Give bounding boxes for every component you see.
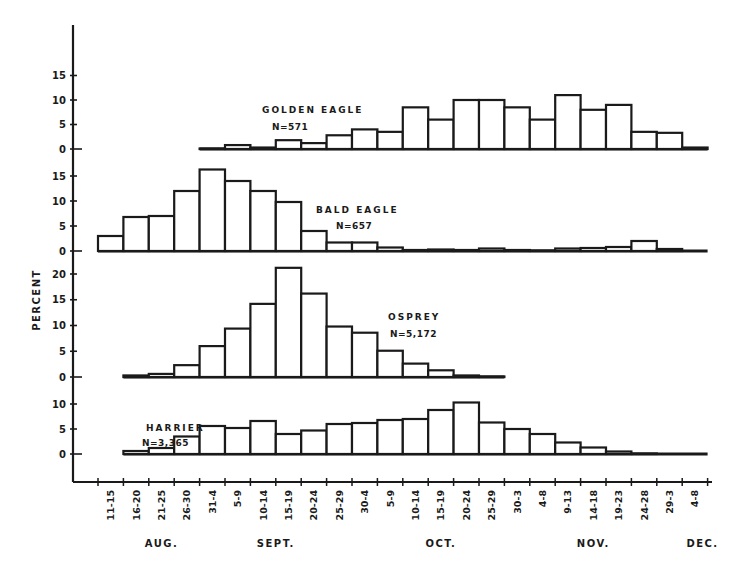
x-tick-label: 31-4 — [207, 490, 218, 514]
bar — [581, 110, 606, 149]
month-labels: AUG.SEPT.OCT.NOV.DEC. — [145, 538, 719, 549]
bar — [377, 248, 402, 252]
bar — [276, 202, 301, 251]
bar — [631, 241, 656, 251]
bar — [377, 351, 402, 377]
y-tick-label: 5 — [59, 346, 66, 357]
y-tick-label: 15 — [52, 294, 66, 305]
series-n-label: N=5,172 — [390, 329, 437, 339]
x-tick-label: 30-3 — [512, 490, 523, 514]
bar — [606, 247, 631, 251]
bar — [225, 181, 250, 251]
bar — [428, 250, 453, 252]
x-tick-label: 14-18 — [588, 490, 599, 521]
bar — [301, 294, 326, 377]
bar — [123, 451, 148, 454]
bar — [352, 423, 377, 454]
x-tick-label: 5-9 — [385, 490, 396, 507]
bar — [631, 454, 656, 455]
x-tick-label: 26-30 — [181, 490, 192, 521]
bar — [403, 364, 428, 377]
bar — [225, 428, 250, 454]
bar — [123, 217, 148, 251]
x-tick-label: 24-28 — [639, 490, 650, 521]
series-n-label: N=3,365 — [142, 438, 189, 448]
x-tick-label: 5-9 — [232, 490, 243, 507]
bar — [479, 423, 504, 455]
bar — [454, 250, 479, 251]
bar — [377, 132, 402, 149]
bar — [479, 100, 504, 149]
y-tick-label: 5 — [59, 221, 66, 232]
series-name-label: HARRIER — [146, 423, 205, 433]
bar — [479, 376, 504, 377]
series-n-label: N=657 — [336, 221, 372, 231]
x-tick-label: 20-24 — [308, 490, 319, 521]
bar — [225, 329, 250, 377]
y-tick-label: 0 — [59, 372, 66, 383]
x-tick-label: 11-15 — [105, 490, 116, 520]
x-tick-label: 25-29 — [486, 490, 497, 520]
x-tick-label: 25-29 — [334, 490, 345, 520]
bar — [149, 216, 174, 251]
bar — [327, 424, 352, 454]
x-tick-label: 15-19 — [283, 490, 294, 520]
y-tick-label: 10 — [52, 320, 66, 331]
bar — [479, 249, 504, 252]
x-tick-label: 4-8 — [689, 490, 700, 508]
bar — [250, 191, 275, 251]
y-tick-label: 15 — [52, 171, 66, 182]
panel-harrier: 0510HARRIERN=3,365 — [52, 399, 708, 460]
series-name-label: GOLDEN EAGLE — [262, 105, 363, 115]
bar — [454, 375, 479, 377]
species-panels: 051015GOLDEN EAGLEN=571051015BALD EAGLEN… — [52, 70, 708, 460]
bar — [581, 448, 606, 455]
bar — [555, 443, 580, 455]
bar — [657, 249, 682, 251]
y-tick-label: 0 — [59, 246, 66, 257]
bar — [555, 95, 580, 149]
bar — [530, 251, 555, 252]
y-tick-label: 10 — [52, 399, 66, 410]
bar — [555, 249, 580, 252]
bar — [428, 370, 453, 377]
x-tick-label: 21-25 — [156, 490, 167, 520]
bar — [276, 140, 301, 149]
x-tick-label: 16-20 — [131, 490, 142, 521]
y-axis-label: PERCENT — [31, 269, 42, 331]
bar — [200, 346, 225, 377]
x-tick-label: 15-19 — [435, 490, 446, 520]
x-tick-label: 29-3 — [664, 490, 675, 514]
bar — [403, 250, 428, 251]
bar — [454, 100, 479, 149]
bar — [530, 120, 555, 149]
bar — [352, 243, 377, 252]
bar — [200, 170, 225, 252]
bar — [250, 304, 275, 377]
bar — [530, 434, 555, 454]
bar — [631, 132, 656, 149]
bar — [352, 333, 377, 377]
y-tick-label: 10 — [52, 95, 66, 106]
y-tick-label: 15 — [52, 70, 66, 81]
bar — [149, 448, 174, 454]
x-tick-label: 20-24 — [461, 490, 472, 521]
bar — [301, 143, 326, 149]
y-tick-label: 0 — [59, 449, 66, 460]
bar — [682, 148, 707, 149]
bar — [98, 236, 123, 251]
x-tick-label: 30-4 — [359, 490, 370, 514]
bar — [606, 452, 631, 455]
x-tick-label: 4-8 — [537, 490, 548, 508]
bar — [454, 403, 479, 455]
bar — [301, 231, 326, 251]
month-label: OCT. — [425, 538, 456, 549]
y-tick-label: 5 — [59, 424, 66, 435]
bar — [403, 419, 428, 454]
bar — [504, 250, 529, 251]
y-tick-label: 0 — [59, 144, 66, 155]
migration-histogram-chart: 11-1516-2021-2526-3031-45-910-1415-1920-… — [0, 0, 729, 574]
month-label: DEC. — [686, 538, 718, 549]
bar — [301, 431, 326, 455]
month-label: NOV. — [577, 538, 610, 549]
